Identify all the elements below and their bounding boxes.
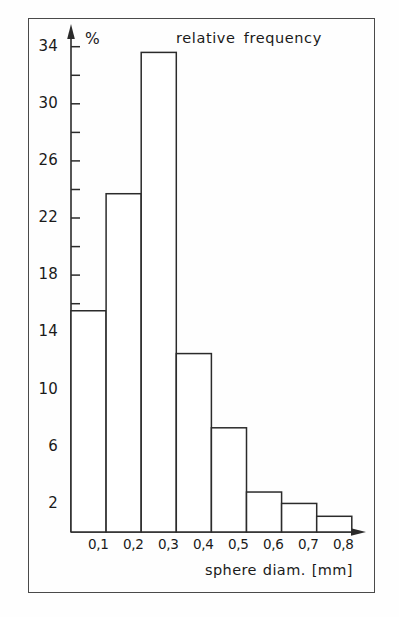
x-tick-label-0.4: 0,4 — [193, 538, 214, 552]
histogram-plot — [0, 0, 399, 617]
x-tick-label-0.6: 0,6 — [263, 538, 284, 552]
y-tick-label-14: 14 — [30, 324, 58, 339]
x-tick-label-0.3: 0,3 — [158, 538, 179, 552]
y-tick-label-22: 22 — [30, 210, 58, 225]
bar-0.1-0.2 — [106, 194, 141, 532]
bar-0.3-0.4 — [176, 354, 211, 532]
bar-0.0-0.1 — [71, 311, 106, 532]
y-tick-label-18: 18 — [30, 267, 58, 282]
x-tick-label-0.5: 0,5 — [228, 538, 249, 552]
y-tick-label-26: 26 — [30, 153, 58, 168]
x-tick-label-0.7: 0,7 — [298, 538, 319, 552]
y-axis-arrow-icon — [67, 24, 75, 39]
chart-page: 34 30 26 22 18 14 10 6 2 % relative freq… — [0, 0, 399, 617]
bar-0.7-0.8 — [317, 516, 352, 532]
histogram-bars — [71, 52, 352, 532]
x-tick-label-0.8: 0,8 — [333, 538, 354, 552]
y-tick-label-34: 34 — [30, 39, 58, 54]
y-tick-label-6: 6 — [30, 439, 58, 454]
chart-title: relative frequency — [176, 31, 322, 46]
bar-0.4-0.5 — [211, 428, 246, 532]
bar-0.6-0.7 — [282, 503, 317, 532]
x-axis-arrow-icon — [351, 528, 366, 536]
bar-0.2-0.3 — [141, 52, 176, 532]
y-axis-unit-label: % — [85, 32, 100, 48]
y-tick-label-30: 30 — [30, 96, 58, 111]
x-axis-title: sphere diam. [mm] — [205, 563, 353, 578]
x-tick-label-0.2: 0,2 — [123, 538, 144, 552]
y-tick-label-10: 10 — [30, 382, 58, 397]
bar-0.5-0.6 — [247, 492, 282, 532]
y-tick-label-2: 2 — [30, 496, 58, 511]
x-tick-label-0.1: 0,1 — [88, 538, 109, 552]
histogram-svg — [0, 0, 399, 617]
